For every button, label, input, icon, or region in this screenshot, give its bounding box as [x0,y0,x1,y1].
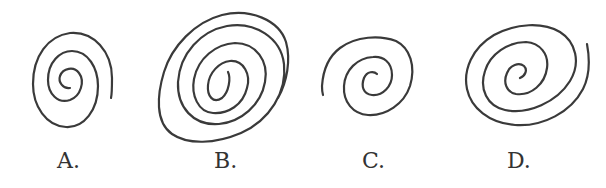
option-d-label: D. [507,148,531,174]
option-c-label: C. [362,148,385,174]
option-b-label: B. [214,148,237,174]
spiral-options-figure: A. B. C. D. [0,0,606,188]
spiral-d [466,25,589,125]
spiral-a [33,33,112,127]
spiral-b [159,13,288,142]
spiral-c [322,37,412,115]
option-a-label: A. [57,148,80,174]
